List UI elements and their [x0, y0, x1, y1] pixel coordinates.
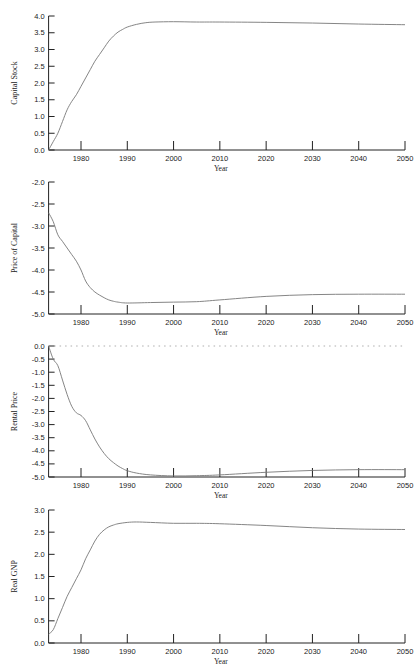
- y-tick-label: 3.5: [34, 28, 44, 37]
- y-tick-label: 3.0: [34, 506, 44, 515]
- y-tick-label: -4.0: [32, 266, 45, 275]
- x-tick-label: 2020: [258, 647, 275, 656]
- x-tick-label: 2030: [304, 154, 321, 163]
- x-tick-label: 1990: [119, 481, 136, 490]
- x-axis-title: Year: [214, 491, 228, 500]
- y-tick-label: 3.0: [34, 45, 44, 54]
- y-tick-label: -3.5: [32, 244, 45, 253]
- series-line: [49, 346, 405, 476]
- y-tick-label: -4.5: [32, 459, 45, 468]
- y-tick-label: 1.5: [34, 95, 44, 104]
- x-tick-label: 1990: [119, 318, 136, 327]
- x-axis-title: Year: [214, 164, 228, 173]
- x-axis-title: Year: [214, 328, 228, 337]
- x-tick-label: 1980: [73, 647, 90, 656]
- y-tick-label: 1.0: [34, 594, 44, 603]
- y-tick-label: 2.0: [34, 79, 44, 88]
- x-tick-label: 2020: [258, 154, 275, 163]
- x-tick-label: 2030: [304, 318, 321, 327]
- y-axis-title: Real GNP: [10, 560, 19, 593]
- y-tick-label: 2.0: [34, 550, 44, 559]
- figure-canvas: 0.00.51.01.52.02.53.03.54.01980199020002…: [0, 0, 419, 669]
- x-tick-label: 2000: [165, 647, 182, 656]
- series-line: [49, 213, 405, 303]
- x-tick-label: 1990: [119, 647, 136, 656]
- y-tick-label: 2.5: [34, 528, 44, 537]
- x-tick-label: 2010: [212, 154, 229, 163]
- y-axis-title: Rental Price: [10, 391, 19, 431]
- x-tick-label: 1980: [73, 481, 90, 490]
- x-tick-label: 2000: [165, 154, 182, 163]
- x-tick-label: 2030: [304, 647, 321, 656]
- y-tick-label: 2.5: [34, 62, 44, 71]
- y-tick-label: 0.0: [34, 639, 44, 648]
- x-tick-label: 2040: [350, 481, 367, 490]
- x-tick-label: 2030: [304, 481, 321, 490]
- y-axis-title: Capital Stock: [10, 61, 19, 104]
- y-tick-label: -4.5: [32, 288, 45, 297]
- y-tick-label: 0.0: [34, 342, 44, 351]
- chart-panel-4: 0.00.51.01.52.02.53.01980199020002010202…: [10, 506, 413, 667]
- y-axis-title: Price of Capital: [10, 222, 19, 273]
- x-tick-label: 2040: [350, 647, 367, 656]
- x-tick-label: 2020: [258, 318, 275, 327]
- chart-panel-2: -5.0-4.5-4.0-3.5-3.0-2.5-2.0198019902000…: [10, 178, 413, 338]
- y-tick-label: -1.5: [32, 381, 45, 390]
- y-tick-label: -3.0: [32, 222, 45, 231]
- y-tick-label: -0.5: [32, 355, 45, 364]
- x-tick-label: 2010: [212, 318, 229, 327]
- x-tick-label: 1980: [73, 154, 90, 163]
- y-tick-label: -5.0: [32, 473, 45, 482]
- y-tick-label: -3.0: [32, 420, 45, 429]
- y-tick-label: 1.0: [34, 112, 44, 121]
- x-tick-label: 2010: [212, 481, 229, 490]
- x-tick-label: 2000: [165, 318, 182, 327]
- series-line: [49, 22, 405, 150]
- y-tick-label: -2.0: [32, 178, 45, 187]
- y-tick-label: -2.5: [32, 407, 45, 416]
- series-line: [49, 522, 405, 634]
- y-tick-label: 4.0: [34, 12, 44, 21]
- y-tick-label: 0.5: [34, 616, 44, 625]
- x-tick-label: 2040: [350, 154, 367, 163]
- x-tick-label: 2020: [258, 481, 275, 490]
- x-tick-label: 2050: [397, 481, 414, 490]
- y-tick-label: -3.5: [32, 433, 45, 442]
- y-tick-label: -2.0: [32, 394, 45, 403]
- x-tick-label: 2050: [397, 154, 414, 163]
- y-tick-label: 0.5: [34, 129, 44, 138]
- x-axis-title: Year: [214, 657, 228, 666]
- y-tick-label: -4.0: [32, 446, 45, 455]
- x-tick-label: 1980: [73, 318, 90, 327]
- x-tick-label: 2050: [397, 647, 414, 656]
- y-tick-label: -2.5: [32, 200, 45, 209]
- x-tick-label: 2050: [397, 318, 414, 327]
- chart-panel-3: -5.0-4.5-4.0-3.5-3.0-2.5-2.0-1.5-1.0-0.5…: [10, 342, 413, 501]
- y-tick-label: -1.0: [32, 368, 45, 377]
- y-tick-label: 1.5: [34, 572, 44, 581]
- figure-stack: 0.00.51.01.52.02.53.03.54.01980199020002…: [0, 0, 419, 669]
- y-tick-label: -5.0: [32, 310, 45, 319]
- x-tick-label: 2000: [165, 481, 182, 490]
- x-tick-label: 2040: [350, 318, 367, 327]
- x-tick-label: 2010: [212, 647, 229, 656]
- chart-panel-1: 0.00.51.01.52.02.53.03.54.01980199020002…: [10, 12, 413, 174]
- y-tick-label: 0.0: [34, 146, 44, 155]
- x-tick-label: 1990: [119, 154, 136, 163]
